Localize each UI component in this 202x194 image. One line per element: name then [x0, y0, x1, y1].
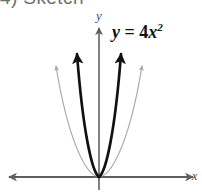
x-axis-label: x: [192, 169, 197, 184]
equation-label: y = 4x2: [112, 22, 163, 43]
equation-variable: x: [148, 22, 157, 42]
equation-coefficient: 4: [139, 22, 148, 42]
graph-figure: 4) Sketch y x y = 4x2: [0, 0, 202, 194]
y-axis-label: y: [96, 8, 102, 24]
parabola-graph-canvas: [0, 0, 202, 194]
bold-parabola-right-arm: [99, 54, 121, 177]
bold-parabola-left-arm: [77, 54, 99, 177]
equation-equals-sign: =: [125, 22, 135, 42]
equation-lhs: y: [112, 22, 120, 42]
equation-exponent: 2: [157, 21, 163, 33]
